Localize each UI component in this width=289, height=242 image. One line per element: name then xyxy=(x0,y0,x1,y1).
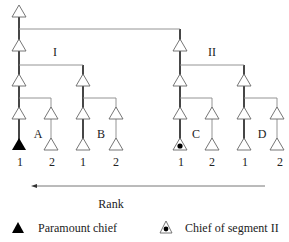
member-label: 1 xyxy=(80,156,86,168)
segment-chief-icon xyxy=(173,138,187,150)
legend-paramount-label: Paramount chief xyxy=(38,222,117,234)
paramount-chief-icon xyxy=(12,138,26,150)
member-label: 2 xyxy=(113,156,119,168)
lineage-label-C: C xyxy=(192,128,200,140)
lineage-label-B: B xyxy=(97,128,105,140)
legend-segment-chief-label: Chief of segment II xyxy=(185,222,279,234)
kinship-tree xyxy=(0,0,289,242)
member-label: 2 xyxy=(49,156,55,168)
member-label: 2 xyxy=(277,156,283,168)
member-label: 2 xyxy=(209,156,215,168)
rank-axis-label: Rank xyxy=(98,198,123,210)
lineage-label-D: D xyxy=(258,128,267,140)
rank-arrow xyxy=(31,184,265,188)
member-label: 1 xyxy=(17,156,23,168)
member-label: 1 xyxy=(178,156,184,168)
member-label: 1 xyxy=(242,156,248,168)
segment-label-II: II xyxy=(208,46,216,58)
segment-label-I: I xyxy=(53,46,57,58)
legend-segment-chief-icon xyxy=(160,221,172,233)
legend-paramount-icon xyxy=(12,222,24,233)
lineage-label-A: A xyxy=(34,128,43,140)
